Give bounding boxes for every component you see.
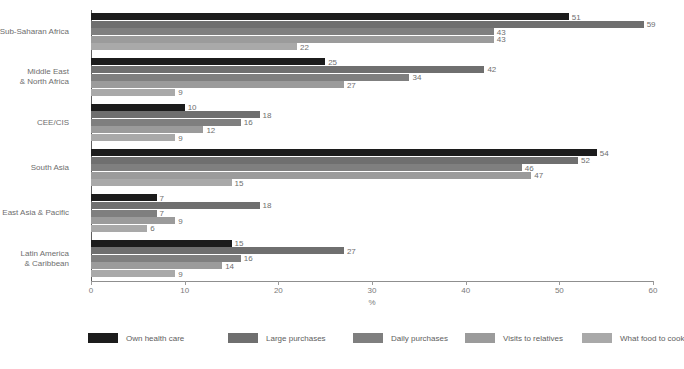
x-tick [653, 281, 654, 285]
legend-item[interactable]: Own health care [88, 330, 184, 346]
category-label: East Asia & Pacific [0, 208, 69, 218]
x-tick-label: 50 [555, 286, 564, 295]
category-label: Sub-Saharan Africa [0, 27, 69, 37]
legend-label: Large purchases [266, 334, 326, 343]
bar[interactable] [91, 119, 241, 126]
bar-row: 9 [91, 134, 653, 141]
bar[interactable] [91, 240, 232, 247]
bar-value-label: 15 [232, 178, 244, 187]
bar[interactable] [91, 13, 569, 20]
bar-row: 34 [91, 74, 653, 81]
bar-group: East Asia & Pacific718796 [91, 194, 653, 232]
bar[interactable] [91, 157, 578, 164]
bar-row: 16 [91, 119, 653, 126]
bar-row: 59 [91, 21, 653, 28]
bar[interactable] [91, 179, 232, 186]
bar-value-label: 9 [175, 88, 182, 97]
legend-label: What food to cook [620, 334, 684, 343]
bar[interactable] [91, 81, 344, 88]
bar[interactable] [91, 164, 522, 171]
legend-swatch [465, 333, 495, 343]
category-label: CEE/CIS [0, 118, 69, 128]
x-tick-label: 40 [461, 286, 470, 295]
bar-row: 42 [91, 66, 653, 73]
bar-row: 7 [91, 194, 653, 201]
bar-row: 9 [91, 89, 653, 96]
bar-group: South Asia5452464715 [91, 149, 653, 187]
bar[interactable] [91, 104, 185, 111]
bar[interactable] [91, 262, 222, 269]
legend-item[interactable]: Daily purchases [353, 330, 448, 346]
chart-legend: Own health careLarge purchasesDaily purc… [0, 330, 669, 350]
plot-area: Sub-Saharan Africa5159434322Middle East … [91, 10, 653, 282]
bar-value-label: 22 [297, 42, 309, 51]
bar-row: 22 [91, 43, 653, 50]
bar[interactable] [91, 134, 175, 141]
bar[interactable] [91, 194, 157, 201]
bar[interactable] [91, 36, 494, 43]
bar-row: 54 [91, 149, 653, 156]
bar[interactable] [91, 270, 175, 277]
x-tick-label: 60 [649, 286, 658, 295]
bar-row: 43 [91, 28, 653, 35]
bar-group: CEE/CIS101816129 [91, 104, 653, 142]
category-label: South Asia [0, 163, 69, 173]
legend-swatch [88, 333, 118, 343]
bar-row: 47 [91, 172, 653, 179]
bar-row: 51 [91, 13, 653, 20]
bar[interactable] [91, 172, 531, 179]
legend-item[interactable]: What food to cook [582, 330, 684, 346]
x-tick-label: 10 [180, 286, 189, 295]
bar[interactable] [91, 28, 494, 35]
bar[interactable] [91, 225, 147, 232]
bar[interactable] [91, 74, 409, 81]
legend-label: Visits to relatives [503, 334, 563, 343]
bar[interactable] [91, 21, 644, 28]
bar-row: 6 [91, 225, 653, 232]
bar-row: 18 [91, 202, 653, 209]
bar[interactable] [91, 111, 260, 118]
x-tick-label: 30 [368, 286, 377, 295]
x-tick-label: 20 [274, 286, 283, 295]
bar-row: 43 [91, 36, 653, 43]
bar-value-label: 9 [175, 269, 182, 278]
bar-row: 52 [91, 157, 653, 164]
bar-value-label: 9 [175, 133, 182, 142]
bar[interactable] [91, 89, 175, 96]
bar-row: 15 [91, 240, 653, 247]
legend-label: Daily purchases [391, 334, 448, 343]
category-label: Latin America & Caribbean [0, 249, 69, 269]
legend-swatch [582, 333, 612, 343]
category-label: Middle East & North Africa [0, 67, 69, 87]
bar[interactable] [91, 43, 297, 50]
bar[interactable] [91, 247, 344, 254]
bar[interactable] [91, 149, 597, 156]
legend-label: Own health care [126, 334, 184, 343]
bar-row: 16 [91, 255, 653, 262]
bar-row: 18 [91, 111, 653, 118]
bar-group: Sub-Saharan Africa5159434322 [91, 13, 653, 51]
legend-item[interactable]: Visits to relatives [465, 330, 563, 346]
bar[interactable] [91, 202, 260, 209]
legend-swatch [353, 333, 383, 343]
legend-item[interactable]: Large purchases [228, 330, 326, 346]
legend-swatch [228, 333, 258, 343]
bar[interactable] [91, 126, 203, 133]
bar-row: 15 [91, 179, 653, 186]
bar-row: 46 [91, 164, 653, 171]
x-tick-label: 0 [89, 286, 93, 295]
bar[interactable] [91, 210, 157, 217]
bar-row: 9 [91, 217, 653, 224]
bar[interactable] [91, 217, 175, 224]
bar-row: 10 [91, 104, 653, 111]
x-axis-title: % [368, 298, 375, 307]
bar-row: 9 [91, 270, 653, 277]
bar[interactable] [91, 255, 241, 262]
bar-row: 27 [91, 247, 653, 254]
bar-row: 25 [91, 58, 653, 65]
bar[interactable] [91, 66, 484, 73]
bar-group: Middle East & North Africa254234279 [91, 58, 653, 96]
bar[interactable] [91, 58, 325, 65]
bar-group: Latin America & Caribbean152716149 [91, 240, 653, 278]
